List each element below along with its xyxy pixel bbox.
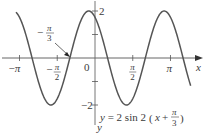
svg-text:+: +	[162, 111, 168, 123]
svg-text:π: π	[55, 62, 60, 72]
x-tick-label: π2	[129, 62, 136, 82]
sine-graph: −π−π2π2π 2−2 0 x y − π 3 y = 2 sin 2 ( x…	[0, 0, 207, 133]
svg-text:2: 2	[55, 72, 60, 82]
svg-text:): )	[180, 112, 184, 125]
svg-text:−: −	[46, 63, 52, 75]
x-tick-label: π	[166, 62, 172, 74]
annotation-neg-pi-over-3: − π 3	[37, 23, 70, 57]
x-tick-label: −π2	[46, 62, 61, 82]
x-axis-label: x	[195, 61, 201, 73]
svg-text:−π: −π	[9, 62, 21, 74]
annotation-arrowhead-icon	[64, 52, 70, 57]
svg-text:π: π	[166, 62, 172, 74]
y-tick-label: −2	[81, 99, 93, 111]
svg-text:(: (	[149, 112, 153, 125]
svg-text:−: −	[37, 26, 43, 38]
svg-text:3: 3	[47, 33, 52, 43]
origin-label: 0	[84, 61, 90, 73]
svg-text:π: π	[47, 23, 52, 33]
svg-text:x: x	[154, 111, 160, 123]
svg-text:2: 2	[130, 72, 135, 82]
svg-text:π: π	[130, 62, 135, 72]
svg-text:π: π	[172, 107, 177, 117]
y-tick-label: 2	[99, 5, 105, 17]
svg-text:3: 3	[172, 118, 177, 128]
equation-label: y = 2 sin 2 ( x + π 3 )	[99, 107, 184, 128]
svg-text:y = 2 sin 2: y = 2 sin 2	[99, 111, 146, 123]
x-tick-label: −π	[9, 62, 21, 74]
